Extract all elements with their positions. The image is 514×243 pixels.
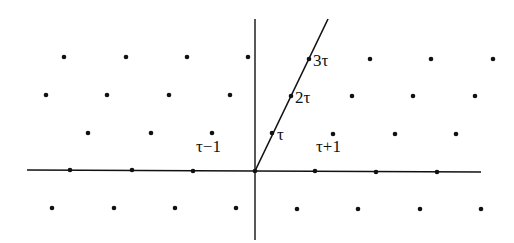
lattice-point bbox=[68, 168, 73, 173]
lattice-point bbox=[185, 55, 190, 60]
lattice-point bbox=[307, 57, 312, 62]
lattice-point bbox=[356, 207, 361, 212]
lattice-point bbox=[50, 206, 55, 211]
lattice-point bbox=[350, 94, 355, 99]
lattice-point bbox=[289, 94, 294, 99]
lattice-point bbox=[435, 170, 440, 175]
label-tau-plus-1: τ+1 bbox=[316, 137, 341, 156]
lattice-point bbox=[473, 94, 478, 99]
lattice-point bbox=[313, 169, 318, 174]
lattice-points bbox=[44, 55, 496, 212]
label-tau-minus-1: τ−1 bbox=[196, 137, 221, 156]
lattice-point bbox=[253, 169, 258, 174]
lattice-point bbox=[191, 169, 196, 174]
lattice-point bbox=[368, 57, 373, 62]
lattice-point bbox=[418, 207, 423, 212]
lattice-point bbox=[393, 132, 398, 137]
lattice-point bbox=[130, 168, 135, 173]
lattice-diagram: 3τ 2τ τ τ−1 τ+1 bbox=[0, 0, 514, 243]
lattice-point bbox=[44, 93, 49, 98]
lattice-point bbox=[479, 207, 484, 212]
lattice-point bbox=[149, 131, 154, 136]
lattice-point bbox=[331, 132, 336, 137]
lattice-point bbox=[112, 206, 117, 211]
lattice-point bbox=[105, 93, 110, 98]
diagram-svg: 3τ 2τ τ τ−1 τ+1 bbox=[0, 0, 514, 243]
lattice-point bbox=[454, 132, 459, 137]
lattice-point bbox=[246, 55, 251, 60]
lattice-point bbox=[167, 93, 172, 98]
lattice-point bbox=[234, 206, 239, 211]
lattice-point bbox=[62, 55, 67, 60]
lattice-point bbox=[124, 55, 129, 60]
lattice-point bbox=[295, 207, 300, 212]
lattice-point bbox=[210, 131, 215, 136]
lattice-point bbox=[86, 131, 91, 136]
label-tau: τ bbox=[277, 125, 284, 144]
lattice-point bbox=[411, 94, 416, 99]
lattice-point bbox=[228, 93, 233, 98]
label-3tau: 3τ bbox=[313, 51, 329, 70]
label-2tau: 2τ bbox=[295, 88, 311, 107]
lattice-point bbox=[429, 57, 434, 62]
point-labels: 3τ 2τ τ τ−1 τ+1 bbox=[196, 51, 341, 156]
lattice-point bbox=[374, 170, 379, 175]
lattice-point bbox=[491, 57, 496, 62]
lattice-point bbox=[173, 206, 178, 211]
lattice-point bbox=[270, 131, 275, 136]
